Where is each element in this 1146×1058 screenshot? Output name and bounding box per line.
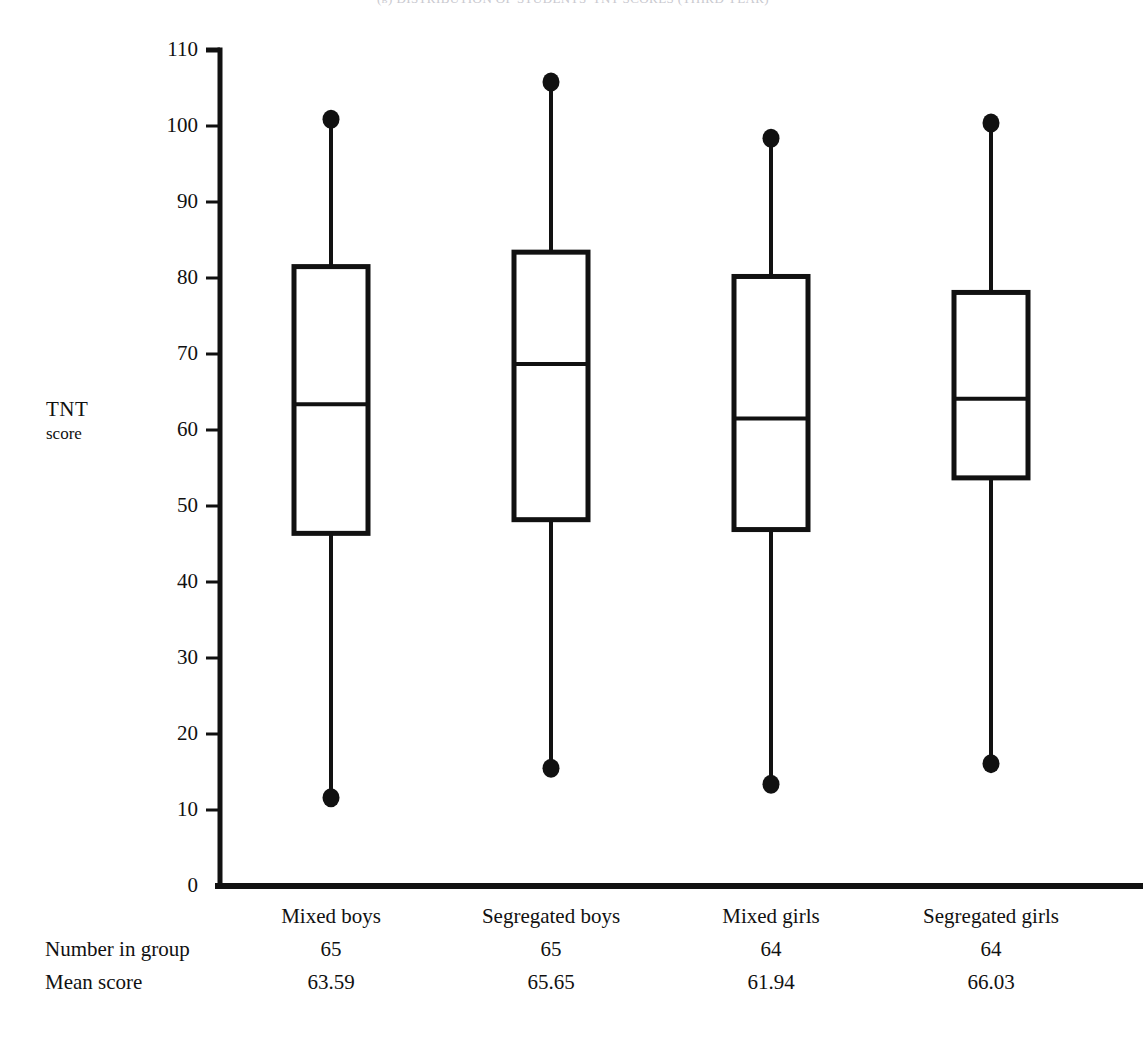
quartile-box — [734, 276, 808, 529]
max-marker-dot — [543, 72, 560, 91]
table-row-number-in-group: Number in group 65656464 — [0, 937, 1146, 970]
group-name-cell: Mixed boys — [216, 904, 446, 929]
row-label-mean-score: Mean score — [45, 970, 142, 995]
number-in-group-cell: 65 — [216, 937, 446, 962]
group-name-cell: Segregated girls — [876, 904, 1106, 929]
mean-score-cell: 61.94 — [656, 970, 886, 995]
min-marker-dot — [763, 775, 780, 794]
y-axis-tick-label: 80 — [142, 267, 198, 288]
y-axis-tick-label: 90 — [142, 191, 198, 212]
boxplot-1 — [294, 110, 368, 808]
min-marker-dot — [543, 759, 560, 778]
table-row-group-names: Mixed boysSegregated boysMixed girlsSegr… — [0, 904, 1146, 937]
max-marker-dot — [323, 110, 340, 129]
y-axis-tick-label: 0 — [142, 875, 198, 896]
y-axis-tick-label: 40 — [142, 571, 198, 592]
row-label-number-in-group: Number in group — [45, 937, 190, 962]
y-axis-tick-label: 110 — [142, 39, 198, 60]
y-axis-tick-label: 60 — [142, 419, 198, 440]
boxplot-canvas — [0, 0, 1146, 1058]
min-marker-dot — [983, 754, 1000, 773]
group-name-cell: Segregated boys — [436, 904, 666, 929]
y-axis-tick-label: 50 — [142, 495, 198, 516]
mean-score-cell: 65.65 — [436, 970, 666, 995]
y-axis-tick-label: 10 — [142, 799, 198, 820]
y-axis-tick-label: 70 — [142, 343, 198, 364]
y-axis-tick-label: 30 — [142, 647, 198, 668]
number-in-group-cell: 64 — [656, 937, 886, 962]
mean-score-cell: 66.03 — [876, 970, 1106, 995]
boxplot-2 — [514, 72, 588, 777]
table-row-mean-score: Mean score 63.5965.6561.9466.03 — [0, 970, 1146, 1003]
min-marker-dot — [323, 788, 340, 807]
y-axis-tick-label: 20 — [142, 723, 198, 744]
chart-page: (b) DISTRIBUTION OF STUDENTS' TNT SCORES… — [0, 0, 1146, 1058]
quartile-box — [294, 267, 368, 534]
group-name-cell: Mixed girls — [656, 904, 886, 929]
y-axis-tick-label: 100 — [142, 115, 198, 136]
mean-score-cell: 63.59 — [216, 970, 446, 995]
quartile-box — [954, 292, 1028, 477]
max-marker-dot — [763, 129, 780, 148]
quartile-box — [514, 252, 588, 520]
boxplot-series-group — [294, 72, 1028, 807]
number-in-group-cell: 65 — [436, 937, 666, 962]
boxplot-3 — [734, 129, 808, 794]
boxplot-4 — [954, 113, 1028, 773]
number-in-group-cell: 64 — [876, 937, 1106, 962]
summary-table: Mixed boysSegregated boysMixed girlsSegr… — [0, 904, 1146, 1003]
max-marker-dot — [983, 113, 1000, 132]
